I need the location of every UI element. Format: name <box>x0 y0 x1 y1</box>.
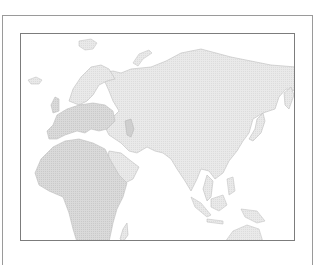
new-guinea <box>241 209 265 223</box>
novaya-zemlya <box>133 50 152 66</box>
borneo <box>211 195 227 211</box>
map-canvas <box>21 34 295 241</box>
iceland <box>28 77 42 84</box>
australia <box>225 225 263 241</box>
kamchatka <box>284 87 294 109</box>
java <box>207 219 223 224</box>
philippines <box>227 177 235 195</box>
british-isles <box>51 97 59 113</box>
map-frame <box>20 33 295 241</box>
svalbard <box>79 39 97 50</box>
madagascar <box>120 223 128 241</box>
malay-peninsula <box>203 175 213 201</box>
